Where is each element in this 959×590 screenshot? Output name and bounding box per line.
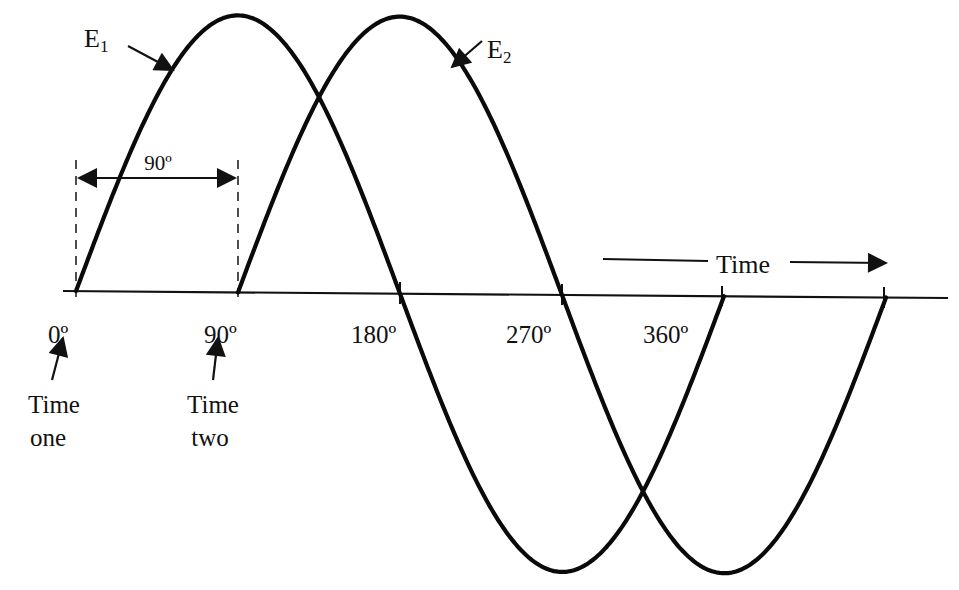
time-two-line1: Time bbox=[187, 391, 239, 418]
time-axis bbox=[63, 291, 948, 298]
e1-label: E1 bbox=[84, 24, 173, 70]
wave-e2 bbox=[238, 17, 886, 574]
e1-pointer-arrow bbox=[128, 46, 173, 70]
wave-e1 bbox=[76, 15, 724, 572]
e1-label-main: E bbox=[84, 24, 100, 53]
time-arrow-right-segment bbox=[790, 262, 886, 263]
time-one-line2: one bbox=[30, 424, 66, 451]
svg-text:E1: E1 bbox=[84, 24, 108, 56]
degree-label: 90º bbox=[204, 321, 237, 348]
e2-label-sub: 2 bbox=[503, 48, 512, 67]
degree-label: 360º bbox=[643, 321, 689, 348]
phase-diagram: 90º E1 E2 0º90º180º270º360º Time one Tim… bbox=[0, 0, 959, 590]
degree-labels: 0º90º180º270º360º bbox=[48, 321, 689, 348]
time-arrow-label: Time bbox=[716, 250, 770, 279]
degree-label: 0º bbox=[48, 321, 69, 348]
time-direction-arrow: Time bbox=[603, 250, 886, 279]
e1-label-sub: 1 bbox=[100, 37, 109, 56]
time-one-callout: Time one bbox=[28, 338, 80, 451]
degree-label: 270º bbox=[506, 321, 552, 348]
svg-text:E2: E2 bbox=[487, 35, 511, 67]
time-arrow-left-segment bbox=[603, 259, 708, 261]
degree-label: 180º bbox=[351, 321, 397, 348]
phase-difference-label: 90º bbox=[144, 151, 172, 175]
e2-label-main: E bbox=[487, 35, 503, 64]
time-one-line1: Time bbox=[28, 391, 80, 418]
e2-pointer-arrow bbox=[452, 41, 482, 67]
time-two-line2: two bbox=[191, 424, 229, 451]
time-two-callout: Time two bbox=[187, 338, 239, 451]
